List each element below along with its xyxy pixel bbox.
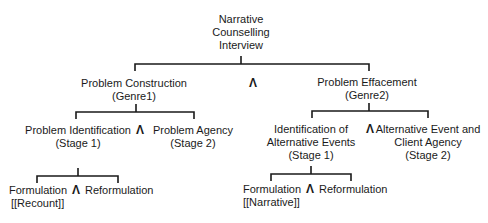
genre2-formulation-type: [[Narrative]] (243, 196, 301, 209)
and-operator-genre2-stages: Λ (366, 123, 374, 136)
root-line-1: Narrative (212, 13, 269, 26)
genre1-formulation-label: Formulation (9, 184, 67, 197)
genre2-title: Problem Effacement (317, 76, 416, 89)
genre2-stage1-line2: Alternative Events (267, 136, 356, 149)
root-bracket (135, 56, 369, 71)
genre1-stage2-title: Problem Agency (153, 124, 233, 137)
genre1-stage2-node: Problem Agency (Stage 2) (153, 124, 233, 150)
narrative-counselling-diagram: Narrative Counselling Interview Problem … (0, 0, 488, 223)
root-line-3: Interview (212, 39, 269, 52)
root-node: Narrative Counselling Interview (212, 13, 269, 52)
genre2-bracket (312, 103, 428, 118)
genre1-node: Problem Construction (Genre1) (81, 77, 187, 103)
root-line-2: Counselling (212, 26, 269, 39)
genre2-stage1-subtitle: (Stage 1) (267, 149, 356, 162)
genre2-node: Problem Effacement (Genre2) (317, 76, 416, 102)
genre2-reformulation-label: Reformulation (319, 183, 387, 196)
genre1-reformulation-node: Reformulation (85, 184, 153, 197)
genre1-stage1-title: Problem Identification (25, 124, 131, 137)
genre2-formulation-label: Formulation (243, 183, 301, 196)
genre1-bracket (76, 104, 194, 119)
genre2-formulation-node: Formulation [[Narrative]] (243, 183, 301, 209)
genre2-stage1-node: Identification of Alternative Events (St… (267, 123, 356, 162)
genre2-stage2-line2: Client Agency (376, 136, 481, 149)
and-operator-genre1-formulation: Λ (72, 184, 80, 197)
genre2-stage2-subtitle: (Stage 2) (376, 149, 481, 162)
genre1-reformulation-label: Reformulation (85, 184, 153, 197)
and-operator-genres: Λ (249, 77, 257, 90)
genre1-stage1-node: Problem Identification (Stage 1) (25, 124, 131, 150)
genre1-stage1-bracket (37, 168, 118, 183)
genre1-formulation-type: [[Recount]] (9, 197, 67, 210)
genre2-stage1-line1: Identification of (267, 123, 356, 136)
genre1-subtitle: (Genre1) (81, 90, 187, 103)
genre1-stage1-subtitle: (Stage 1) (25, 137, 131, 150)
and-operator-genre1-stages: Λ (136, 124, 144, 137)
genre2-subtitle: (Genre2) (317, 89, 416, 102)
genre1-stage2-subtitle: (Stage 2) (153, 137, 233, 150)
genre1-formulation-node: Formulation [[Recount]] (9, 184, 67, 210)
genre2-stage2-line1: Alternative Event and (376, 123, 481, 136)
genre1-title: Problem Construction (81, 77, 187, 90)
genre2-stage1-bracket (271, 166, 351, 181)
and-operator-genre2-formulation: Λ (306, 183, 314, 196)
genre2-stage2-node: Alternative Event and Client Agency (Sta… (376, 123, 481, 162)
genre2-reformulation-node: Reformulation (319, 183, 387, 196)
